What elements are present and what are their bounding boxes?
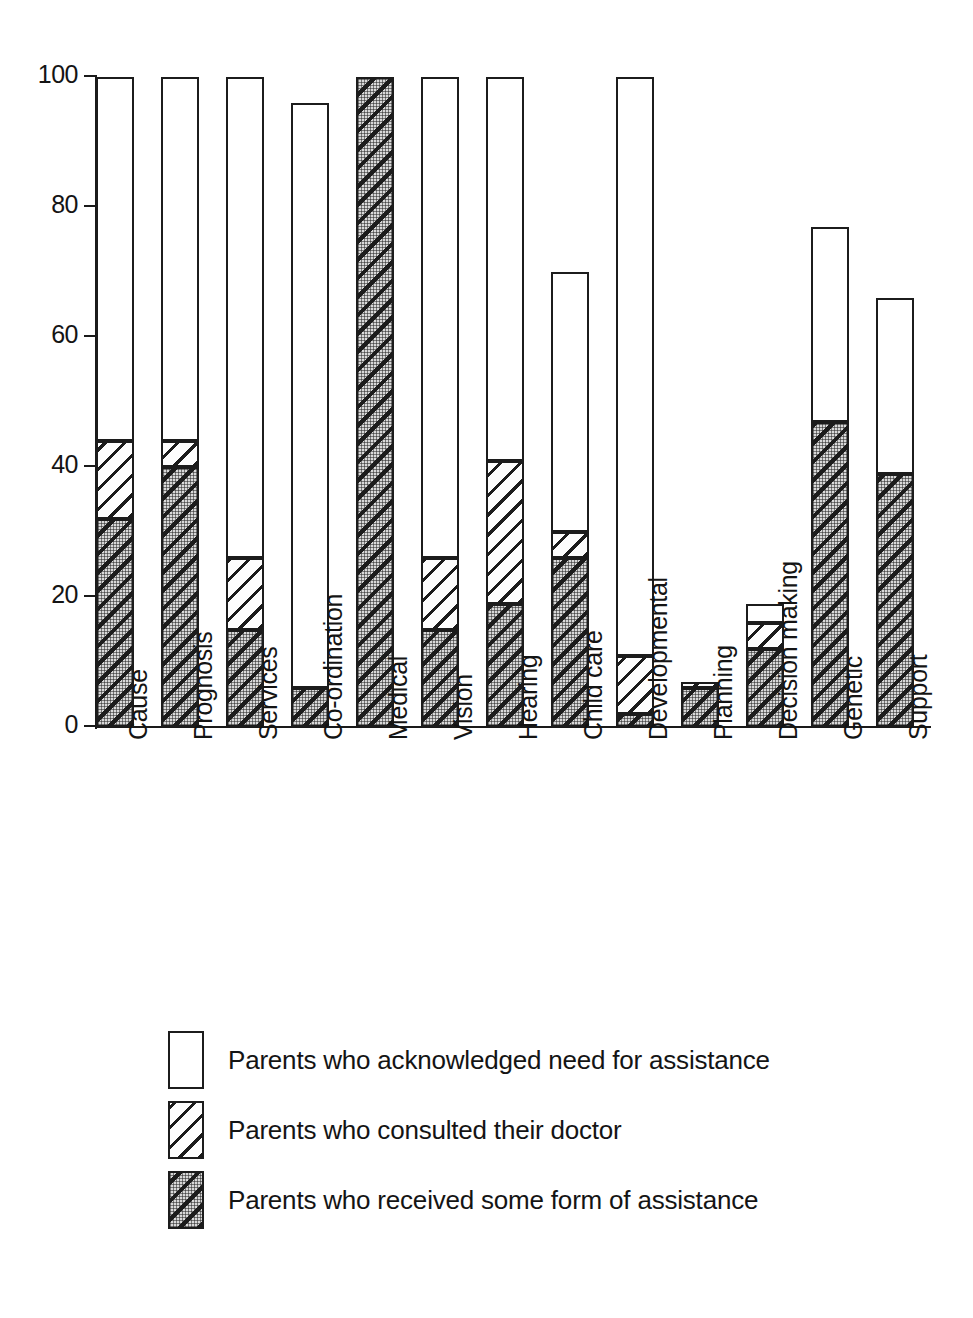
segment-consulted-doctor <box>96 441 134 519</box>
legend-item[interactable]: Parents who acknowledged need for assist… <box>168 1025 868 1095</box>
bar-services[interactable] <box>226 77 264 727</box>
segment-acknowledged-need <box>421 77 459 558</box>
bar-cause[interactable] <box>96 77 134 727</box>
legend-item[interactable]: Parents who received some form of assist… <box>168 1165 868 1235</box>
x-label-text: Vision <box>451 674 476 740</box>
bar-medical[interactable] <box>356 77 394 727</box>
plot-area: 100806040200 <box>96 77 930 727</box>
legend-label: Parents who acknowledged need for assist… <box>228 1045 770 1075</box>
legend-swatch-dotted-diagonal-hatch <box>168 1171 204 1229</box>
x-label-decision-making: Decision making <box>746 740 784 766</box>
x-label-text: Child care <box>581 630 606 740</box>
chart-legend: Parents who acknowledged need for assist… <box>168 1025 868 1235</box>
segment-acknowledged-need <box>161 77 199 441</box>
x-label-text: Hearing <box>516 655 541 740</box>
x-label-planning: Planning <box>681 740 719 766</box>
legend-label: Parents who received some form of assist… <box>228 1185 758 1215</box>
y-tick-label: 100 <box>38 61 78 87</box>
x-label-medical: Medical <box>356 740 394 766</box>
legend-swatch-diagonal-hatch <box>168 1101 204 1159</box>
segment-received-assistance <box>356 77 394 727</box>
x-label-text: Decision making <box>776 561 801 740</box>
y-tick-label: 80 <box>51 191 78 217</box>
x-label-prognosis: Prognosis <box>161 740 199 766</box>
legend-swatch-white <box>168 1031 204 1089</box>
y-tick-label: 40 <box>51 451 78 477</box>
segment-acknowledged-need <box>551 272 589 532</box>
segment-consulted-doctor <box>161 441 199 467</box>
x-label-text: Cause <box>126 669 151 740</box>
x-label-text: Genetic <box>841 656 866 740</box>
bar-prognosis[interactable] <box>161 77 199 727</box>
x-label-text: Developmental <box>646 577 671 740</box>
bar-genetic[interactable] <box>811 227 849 728</box>
y-tick-80: 80 <box>84 205 96 207</box>
x-label-support: Support <box>876 740 914 766</box>
segment-acknowledged-need <box>96 77 134 441</box>
y-tick-100: 100 <box>84 75 96 77</box>
segment-acknowledged-need <box>226 77 264 558</box>
x-label-services: Services <box>226 740 264 766</box>
y-tick-label: 60 <box>51 321 78 347</box>
segment-consulted-doctor <box>226 558 264 630</box>
segment-acknowledged-need <box>616 77 654 656</box>
x-label-developmental: Developmental <box>616 740 654 766</box>
x-label-text: Planning <box>711 645 736 740</box>
y-tick-20: 20 <box>84 595 96 597</box>
bar-hearing[interactable] <box>486 77 524 727</box>
legend-label: Parents who consulted their doctor <box>228 1115 622 1145</box>
segment-acknowledged-need <box>876 298 914 474</box>
x-label-genetic: Genetic <box>811 740 849 766</box>
stacked-bar-chart: 100806040200 CausePrognosisServicesCo-or… <box>0 0 973 960</box>
x-label-co-ordination: Co-ordination <box>291 740 329 766</box>
y-tick-0: 0 <box>84 725 96 727</box>
segment-acknowledged-need <box>486 77 524 461</box>
x-label-child-care: Child care <box>551 740 589 766</box>
bar-vision[interactable] <box>421 77 459 727</box>
y-tick-label: 0 <box>65 711 78 737</box>
segment-acknowledged-need <box>811 227 849 422</box>
x-label-hearing: Hearing <box>486 740 524 766</box>
x-label-text: Support <box>906 655 931 740</box>
segment-consulted-doctor <box>486 461 524 604</box>
y-tick-60: 60 <box>84 335 96 337</box>
y-tick-label: 20 <box>51 581 78 607</box>
x-label-text: Co-ordination <box>321 594 346 740</box>
segment-consulted-doctor <box>551 532 589 558</box>
x-label-text: Medical <box>386 656 411 740</box>
segment-consulted-doctor <box>421 558 459 630</box>
x-label-text: Services <box>256 647 281 740</box>
x-label-cause: Cause <box>96 740 134 766</box>
x-label-text: Prognosis <box>191 632 216 740</box>
y-tick-40: 40 <box>84 465 96 467</box>
legend-item[interactable]: Parents who consulted their doctor <box>168 1095 868 1165</box>
x-label-vision: Vision <box>421 740 459 766</box>
